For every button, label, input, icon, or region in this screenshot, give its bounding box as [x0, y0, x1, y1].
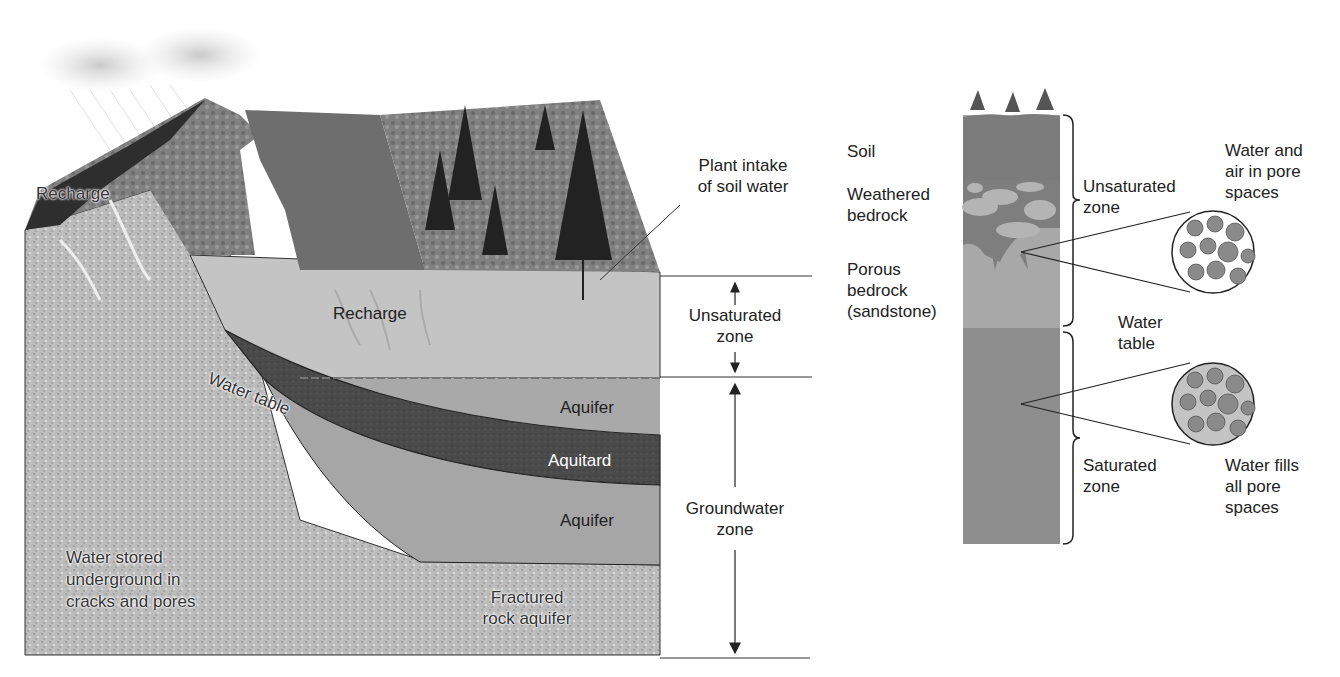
- groundwater-cross-section: Recharge Plant intake of soil water Rech…: [0, 0, 840, 677]
- aquitard-label: Aquitard: [548, 450, 611, 471]
- column-unsaturated-line-2: zone: [1083, 197, 1176, 218]
- aquifer-lower-label: Aquifer: [560, 510, 614, 531]
- column-water-table-line-1: Water: [1118, 312, 1163, 333]
- unsaturated-pores-callout: Water and air in pore spaces: [1225, 140, 1303, 203]
- recharge-mid-label: Recharge: [333, 303, 407, 324]
- water-stored-label: Water stored underground in cracks and p…: [66, 547, 195, 613]
- water-stored-line-1: Water stored: [66, 547, 195, 569]
- callout-lines: [1021, 212, 1190, 444]
- recharge-top-label: Recharge: [36, 183, 110, 204]
- saturated-pores-line-2: all pore: [1225, 476, 1299, 497]
- unsaturated-zone-line-2: zone: [675, 326, 795, 347]
- pore-magnifier-saturated: [1172, 363, 1255, 445]
- weathered-bedrock-label: Weathered bedrock: [847, 184, 930, 226]
- water-stored-line-3: cracks and pores: [66, 591, 195, 613]
- fractured-rock-line-2: rock aquifer: [462, 608, 592, 629]
- pore-magnifier-unsaturated: [1172, 211, 1255, 293]
- weathered-bedrock-line-2: bedrock: [847, 205, 930, 226]
- fractured-rock-line-1: Fractured: [462, 587, 592, 608]
- groundwater-zone-line-1: Groundwater: [670, 498, 800, 519]
- plant-intake-line-1: Plant intake: [668, 155, 818, 176]
- column-water-table-line-2: table: [1118, 333, 1163, 354]
- plant-intake-line-2: of soil water: [668, 176, 818, 197]
- porous-bedrock-label: Porous bedrock (sandstone): [847, 259, 937, 322]
- saturated-pores-line-1: Water fills: [1225, 455, 1299, 476]
- saturated-pores-callout: Water fills all pore spaces: [1225, 455, 1299, 518]
- weathered-bedrock-line-1: Weathered: [847, 184, 930, 205]
- soil-label: Soil: [847, 141, 875, 162]
- aquifer-upper-label: Aquifer: [560, 397, 614, 418]
- porous-bedrock-line-1: Porous: [847, 259, 937, 280]
- column-unsaturated-line-1: Unsaturated: [1083, 176, 1176, 197]
- unsaturated-zone-line-1: Unsaturated: [675, 305, 795, 326]
- water-stored-line-2: underground in: [66, 569, 195, 591]
- porous-bedrock-line-2: bedrock: [847, 280, 937, 301]
- unsaturated-pores-line-3: spaces: [1225, 182, 1303, 203]
- column-saturated-line-2: zone: [1083, 476, 1157, 497]
- plant-intake-label: Plant intake of soil water: [668, 155, 818, 197]
- fractured-rock-label: Fractured rock aquifer: [462, 587, 592, 629]
- groundwater-zone-line-2: zone: [670, 519, 800, 540]
- groundwater-zone-label: Groundwater zone: [670, 498, 800, 540]
- cloud-icon: [38, 27, 262, 93]
- unsaturated-pores-line-2: air in pore: [1225, 161, 1303, 182]
- unsaturated-pores-line-1: Water and: [1225, 140, 1303, 161]
- unsaturated-zone-label: Unsaturated zone: [675, 305, 795, 347]
- column-water-table-label: Water table: [1118, 312, 1163, 354]
- porous-bedrock-line-3: (sandstone): [847, 301, 937, 322]
- column-unsaturated-zone-label: Unsaturated zone: [1083, 176, 1176, 218]
- zone-braces: [1063, 115, 1080, 544]
- column-saturated-zone-label: Saturated zone: [1083, 455, 1157, 497]
- saturated-pores-line-3: spaces: [1225, 497, 1299, 518]
- column-saturated-line-1: Saturated: [1083, 455, 1157, 476]
- plant-icon: [970, 88, 1054, 112]
